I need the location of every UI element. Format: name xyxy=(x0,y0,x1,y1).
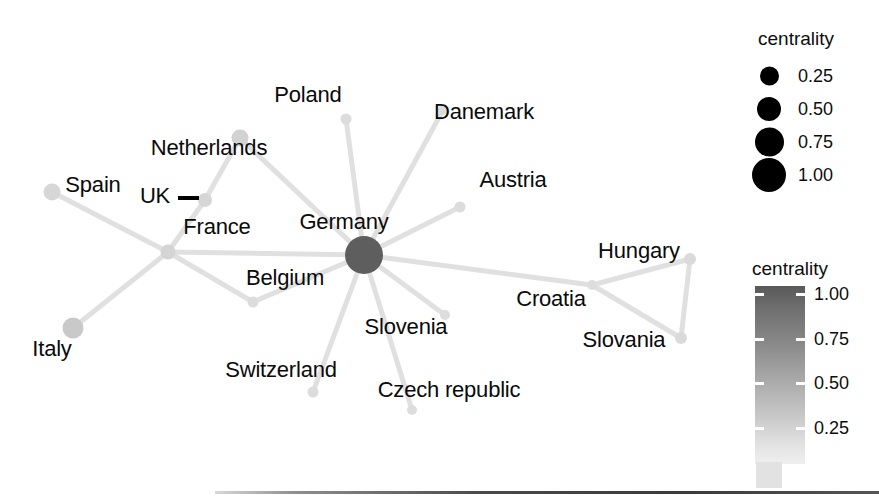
node-label-netherlands: Netherlands xyxy=(151,137,267,159)
node-label-germany: Germany xyxy=(299,211,388,233)
size-legend-rows: 0.250.500.751.00 xyxy=(752,59,877,191)
node-label-danemark: Danemark xyxy=(434,101,534,123)
network-node-spain[interactable] xyxy=(44,184,61,201)
size-legend-value: 0.75 xyxy=(798,131,833,152)
colorbar-title: centrality xyxy=(752,258,877,280)
size-legend-circle-icon xyxy=(760,66,779,85)
node-label-uk: UK xyxy=(140,185,170,207)
colorbar-tick-label: 0.25 xyxy=(814,418,849,439)
node-label-austria: Austria xyxy=(479,169,546,191)
network-edge xyxy=(346,119,364,255)
network-node-slovania[interactable] xyxy=(675,332,687,344)
size-legend-circle-icon xyxy=(757,97,781,121)
size-legend-row: 0.75 xyxy=(752,125,877,158)
colorbar-tick-mark xyxy=(755,427,764,430)
size-legend: centrality 0.250.500.751.00 xyxy=(752,28,877,191)
network-edge xyxy=(681,259,690,338)
colorbar-gradient xyxy=(755,286,805,464)
size-legend-title: centrality xyxy=(758,28,877,50)
colorbar-tick-mark xyxy=(755,382,764,385)
network-node-germany[interactable] xyxy=(345,236,383,274)
node-label-slovenia: Slovenia xyxy=(365,316,448,338)
colorbar-tick-label: 0.50 xyxy=(814,373,849,394)
colorbar-tick-mark xyxy=(796,338,805,341)
colorbar-tick-mark xyxy=(755,293,764,296)
network-node-belgium[interactable] xyxy=(248,297,259,308)
network-node-austria[interactable] xyxy=(455,202,466,213)
node-label-czech-republic: Czech republic xyxy=(378,379,521,401)
colorbar-tick-mark xyxy=(796,293,805,296)
corner-artifact xyxy=(756,462,782,488)
network-node-hungary[interactable] xyxy=(684,253,696,265)
node-label-hungary: Hungary xyxy=(598,240,680,262)
size-legend-value: 0.25 xyxy=(798,65,833,86)
colorbar-tick-label: 0.75 xyxy=(814,329,849,350)
network-node-switzerland[interactable] xyxy=(308,387,319,398)
network-node-croatia[interactable] xyxy=(587,280,597,290)
node-label-switzerland: Switzerland xyxy=(225,359,337,381)
size-legend-circle-icon xyxy=(755,127,784,156)
node-label-slovania: Slovania xyxy=(583,329,666,351)
network-node-france[interactable] xyxy=(161,245,176,260)
network-node-uk[interactable] xyxy=(198,193,212,207)
node-label-france: France xyxy=(183,216,250,238)
bottom-rule xyxy=(215,491,879,494)
network-edge xyxy=(73,252,168,328)
network-node-poland[interactable] xyxy=(341,114,352,125)
colorbar-tick-mark xyxy=(796,427,805,430)
network-edge xyxy=(168,252,253,302)
colorbar-wrap: 1.000.750.500.25 xyxy=(752,286,877,466)
node-label-spain: Spain xyxy=(65,174,120,196)
size-legend-value: 0.50 xyxy=(798,98,833,119)
node-label-belgium: Belgium xyxy=(246,267,324,289)
network-edge xyxy=(168,252,364,255)
size-legend-row: 0.25 xyxy=(752,59,877,92)
network-figure: GermanyPolandDanemarkAustriaNetherlandsU… xyxy=(0,0,879,500)
colorbar-tick-label: 1.00 xyxy=(814,284,849,305)
size-legend-row: 1.00 xyxy=(752,158,877,191)
size-legend-row: 0.50 xyxy=(752,92,877,125)
size-legend-circle-icon xyxy=(752,158,786,192)
colorbar-tick-mark xyxy=(755,338,764,341)
node-label-italy: Italy xyxy=(32,338,71,360)
node-label-croatia: Croatia xyxy=(516,288,586,310)
node-label-poland: Poland xyxy=(274,84,341,106)
colorbar-legend: centrality 1.000.750.500.25 xyxy=(752,258,877,466)
network-canvas xyxy=(0,0,879,500)
network-node-czech-republic[interactable] xyxy=(407,405,417,415)
colorbar-tick-mark xyxy=(796,382,805,385)
size-legend-value: 1.00 xyxy=(798,164,833,185)
